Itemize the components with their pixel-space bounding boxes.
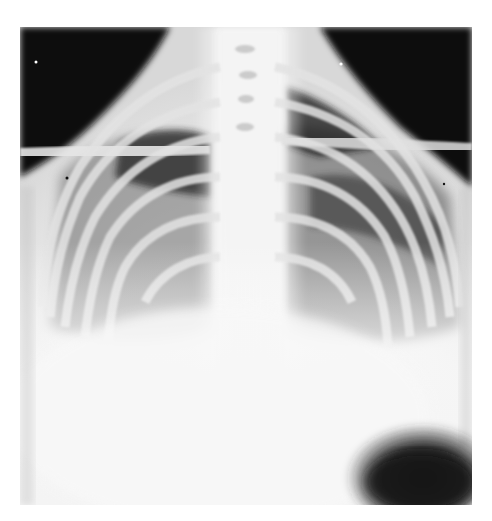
xray-render	[20, 27, 472, 505]
chest-xray-image	[20, 27, 472, 505]
